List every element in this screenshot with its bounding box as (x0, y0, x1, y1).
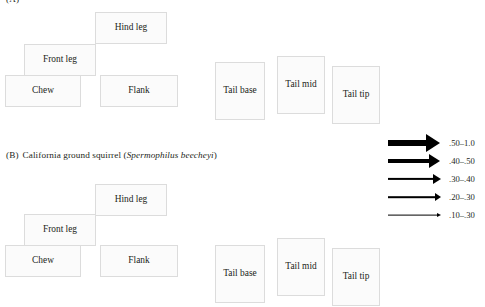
panel-a-node-front-leg: Front leg (24, 44, 96, 76)
node-label: Chew (32, 86, 54, 95)
node-label: Tail base (223, 269, 256, 278)
legend-label: .50–1.0 (446, 138, 475, 148)
arrow-icon (388, 135, 446, 151)
panel-a-node-hind-leg: Hind leg (95, 12, 167, 44)
panel-b-node-tail-tip: Tail tip (332, 248, 380, 306)
panel-b-node-hind-leg: Hind leg (95, 184, 167, 216)
panel-a-caption: (A) (6, 0, 23, 4)
panel-b-caption-text: California ground squirrel ( (23, 150, 127, 160)
node-label: Hind leg (115, 195, 148, 204)
legend-row-40-50: .40–.50 (388, 152, 485, 170)
legend-label: .40–.50 (446, 156, 475, 166)
node-label: Tail tip (343, 272, 370, 281)
node-label: Tail tip (343, 90, 370, 99)
node-label: Flank (128, 86, 149, 95)
legend-row-30-40: .30–.40 (388, 170, 485, 188)
legend-label: .20–.30 (446, 192, 475, 202)
legend-label: .10–.30 (446, 210, 475, 220)
panel-a-node-tail-tip: Tail tip (332, 66, 380, 124)
arrow-icon (388, 207, 446, 223)
legend-row-20-30: .20–.30 (388, 188, 485, 206)
panel-a-node-tail-base: Tail base (215, 62, 265, 120)
legend-row-10-30: .10–.30 (388, 206, 485, 224)
panel-b-node-tail-base: Tail base (215, 245, 265, 303)
arrow-icon (388, 153, 446, 169)
panel-b-label: (B) (6, 150, 19, 160)
panel-b-caption-close: ) (214, 150, 217, 160)
panel-a-label: (A) (6, 0, 19, 4)
panel-a-node-chew: Chew (5, 75, 81, 107)
panel-a-node-tail-mid: Tail mid (277, 56, 325, 114)
node-label: Flank (128, 256, 149, 265)
panel-b-node-front-leg: Front leg (24, 214, 96, 246)
transition-probability-legend: .50–1.0 .40–.50 .30–.40 .20–.30 (388, 134, 485, 234)
node-label: Chew (32, 256, 54, 265)
arrow-icon (388, 171, 446, 187)
figure-root: (A) Hind leg Front leg Chew Flank Tail b… (0, 0, 485, 307)
panel-b-node-chew: Chew (5, 245, 81, 277)
node-label: Front leg (43, 55, 77, 64)
panel-a-node-flank: Flank (100, 75, 178, 107)
panel-b-caption: (B)California ground squirrel (Spermophi… (6, 150, 217, 160)
panel-b-node-tail-mid: Tail mid (277, 238, 325, 296)
arrow-icon (388, 189, 446, 205)
node-label: Tail mid (285, 80, 316, 89)
node-label: Hind leg (115, 23, 148, 32)
node-label: Front leg (43, 225, 77, 234)
legend-label: .30–.40 (446, 174, 475, 184)
panel-b-node-flank: Flank (100, 245, 178, 277)
node-label: Tail base (223, 86, 256, 95)
node-label: Tail mid (285, 262, 316, 271)
legend-row-50-100: .50–1.0 (388, 134, 485, 152)
panel-b-species-name: Spermophilus beecheyi (127, 150, 214, 160)
